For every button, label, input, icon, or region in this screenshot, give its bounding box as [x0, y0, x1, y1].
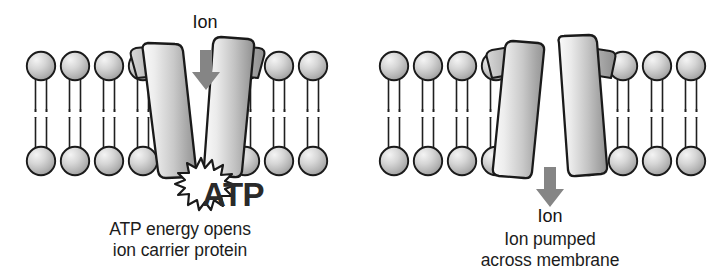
ion-carrier-protein-closed	[487, 35, 616, 178]
caption-right-line2: across membrane	[430, 250, 670, 271]
panel-right	[374, 35, 705, 207]
caption-right-line1: Ion pumped	[430, 229, 670, 250]
atp-wordmark: ATP	[202, 176, 264, 214]
panel-left	[20, 37, 350, 210]
lipid-group-bottom-left	[27, 109, 157, 175]
caption-left-line1: ATP energy opens	[60, 219, 300, 240]
lipid-group-bottom-left	[380, 109, 510, 175]
ion-label-right: Ion	[515, 206, 585, 226]
ion-label-left: Ion	[170, 12, 240, 32]
ion-arrow-down	[536, 167, 564, 207]
active-transport-diagram: Ion ATP ATP energy opens ion carrier pro…	[0, 0, 728, 279]
caption-left-line2: ion carrier protein	[60, 240, 300, 261]
